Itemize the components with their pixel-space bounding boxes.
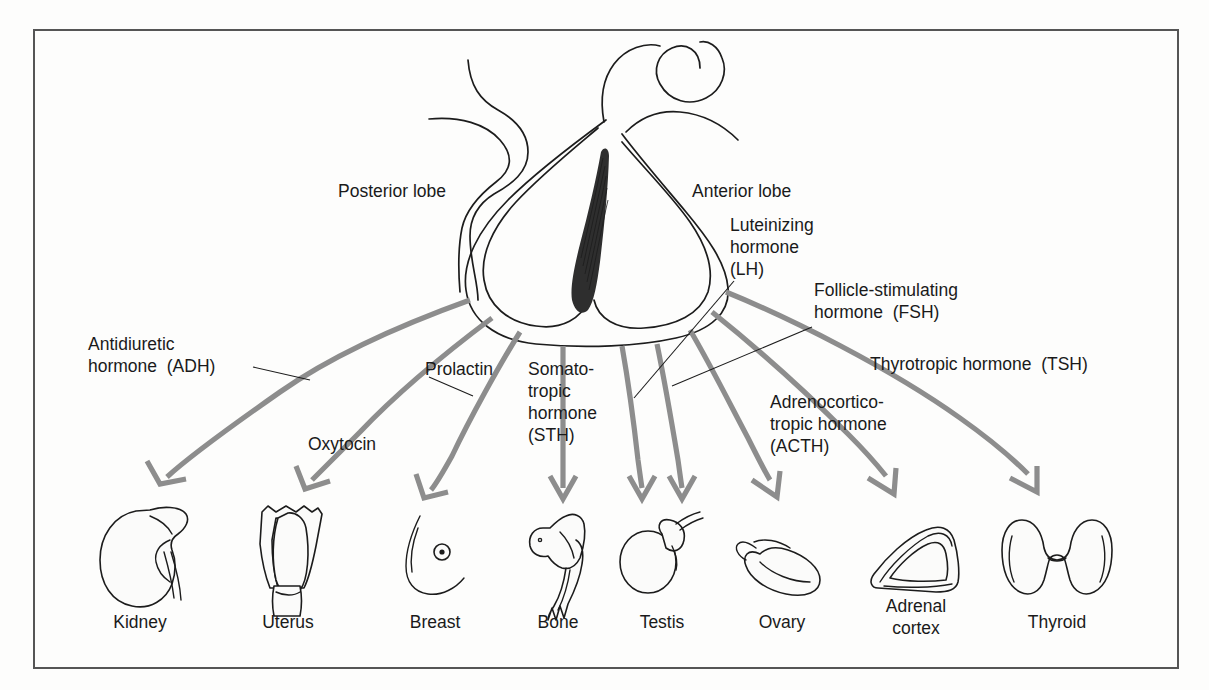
label-acth-line2: tropic hormone [770, 414, 887, 434]
label-lh-line2: hormone [730, 237, 799, 257]
organ-breast: Breast [406, 516, 464, 632]
label-adh-line2: hormone (ADH) [88, 356, 215, 376]
label-acth-line3: (ACTH) [770, 436, 829, 456]
organ-label-adrenal-line2: cortex [892, 618, 940, 638]
label-tsh: Thyrotropic hormone (TSH) [870, 354, 1088, 374]
label-fsh-line1: Follicle-stimulating [814, 280, 958, 300]
figure-root: Posterior lobe Anterior lobe [0, 0, 1209, 690]
infundibulum-junction [602, 45, 660, 122]
organ-thyroid: Thyroid [1002, 520, 1112, 632]
organ-label-bone: Bone [538, 612, 579, 632]
organ-label-breast: Breast [410, 612, 461, 632]
label-oxytocin: Oxytocin [308, 434, 376, 454]
arrow-prolactin-to-breast [416, 332, 520, 498]
label-sth-line2: tropic [528, 381, 571, 401]
label-sth-line3: hormone [528, 403, 597, 423]
anterior-lobe-label: Anterior lobe [692, 181, 791, 201]
breast-nipple [439, 549, 444, 554]
thyroid-body [1002, 520, 1112, 594]
pituitary-diagram: Posterior lobe Anterior lobe [0, 0, 1209, 690]
anterior-lobe-body [594, 142, 710, 328]
label-lh-line1: Luteinizing [730, 215, 814, 235]
arrow-lh-to-ovary-inner [657, 344, 695, 499]
posterior-lobe-label: Posterior lobe [338, 181, 446, 201]
organ-label-testis: Testis [640, 612, 685, 632]
label-prolactin: Prolactin [425, 359, 493, 379]
organ-testis: Testis [620, 512, 703, 632]
organ-label-kidney: Kidney [113, 612, 167, 632]
leader-prolactin [429, 377, 473, 396]
arrow-adh-to-kidney [147, 300, 470, 484]
ovary-fimbria [754, 540, 790, 548]
organ-label-ovary: Ovary [759, 612, 806, 632]
pituitary-gland-illustration: Posterior lobe Anterior lobe [338, 42, 791, 347]
organ-bone: Bone [530, 514, 585, 632]
leader-adh [253, 367, 310, 380]
testis-vas-deferens [676, 512, 700, 524]
organ-ovary: Ovary [736, 540, 820, 632]
label-fsh-line2: hormone (FSH) [814, 302, 939, 322]
label-adh-line1: Antidiuretic [88, 334, 175, 354]
organ-adrenal-cortex: Adrenal cortex [871, 527, 959, 638]
label-sth-line1: Somato- [528, 359, 594, 379]
label-sth-line4: (STH) [528, 425, 575, 445]
organ-label-adrenal-line1: Adrenal [886, 596, 946, 616]
bone-femur-shape [530, 514, 585, 620]
arrow-fsh-to-testis [622, 346, 655, 499]
organ-label-uterus: Uterus [262, 612, 314, 632]
ovary-body [745, 548, 820, 595]
posterior-stalk-inner [429, 118, 509, 292]
uterus-body [273, 513, 308, 594]
anterior-stalk-curl [656, 42, 724, 102]
organ-label-thyroid: Thyroid [1028, 612, 1086, 632]
label-lh-line3: (LH) [730, 259, 764, 279]
label-acth-line1: Adrenocortico- [770, 392, 884, 412]
kidney-shape [100, 507, 188, 607]
organ-kidney: Kidney [100, 507, 188, 632]
organ-uterus: Uterus [260, 506, 322, 632]
infundibulum-right-line [626, 112, 738, 140]
hormone-arrows-group [147, 292, 1037, 499]
arrow-oxytocin-to-uterus [296, 318, 492, 489]
